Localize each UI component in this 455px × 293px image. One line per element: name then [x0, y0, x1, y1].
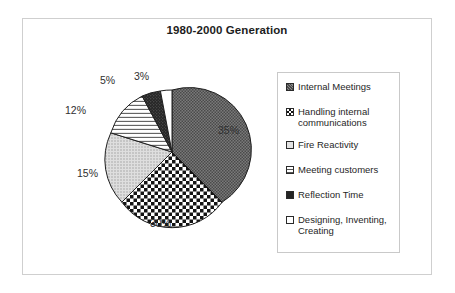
legend-swatch-dark-gray-dotted-icon	[286, 83, 294, 91]
pie-label-30-percent: 30%	[150, 217, 171, 229]
legend-label: Meeting customers	[298, 164, 378, 175]
legend-item-internal-meetings[interactable]: Internal Meetings	[286, 81, 398, 92]
page-title: 1980-2000 Generation	[22, 24, 432, 36]
legend-swatch-light-gray-dotted-icon	[286, 141, 294, 149]
pie-label-12-percent: 12%	[65, 104, 86, 116]
pie-label-5-percent: 5%	[100, 74, 115, 86]
legend-label: Fire Reactivity	[298, 139, 358, 150]
legend-swatch-horizontal-hatch-icon	[286, 166, 294, 174]
legend-item-handling-internal-communications[interactable]: Handling internal communications	[286, 106, 398, 128]
pie-label-35-percent: 35%	[218, 124, 239, 136]
legend-swatch-dark-speckled-icon	[286, 191, 294, 199]
legend-item-meeting-customers[interactable]: Meeting customers	[286, 164, 398, 175]
legend-swatch-black-checkerboard-icon	[286, 108, 294, 116]
legend-item-fire-reactivity[interactable]: Fire Reactivity	[286, 139, 398, 150]
legend-label: Internal Meetings	[298, 81, 371, 92]
legend-item-reflection-time[interactable]: Reflection Time	[286, 189, 398, 200]
legend: Internal Meetings Handling internal comm…	[277, 72, 400, 253]
pie-label-15-percent: 15%	[77, 167, 98, 179]
legend-label: Reflection Time	[298, 189, 363, 200]
legend-label: Handling internal communications	[298, 106, 398, 128]
pie-label-3-percent: 3%	[134, 70, 149, 82]
pie-chart: 35% 30% 15% 12% 5% 3%	[60, 62, 275, 257]
figure-canvas: 1980-2000 Generation	[0, 0, 455, 293]
legend-item-designing-inventing-creating[interactable]: Designing, Inventing, Creating	[286, 214, 398, 236]
legend-swatch-white-empty-icon	[286, 216, 294, 224]
legend-label: Designing, Inventing, Creating	[298, 214, 398, 236]
